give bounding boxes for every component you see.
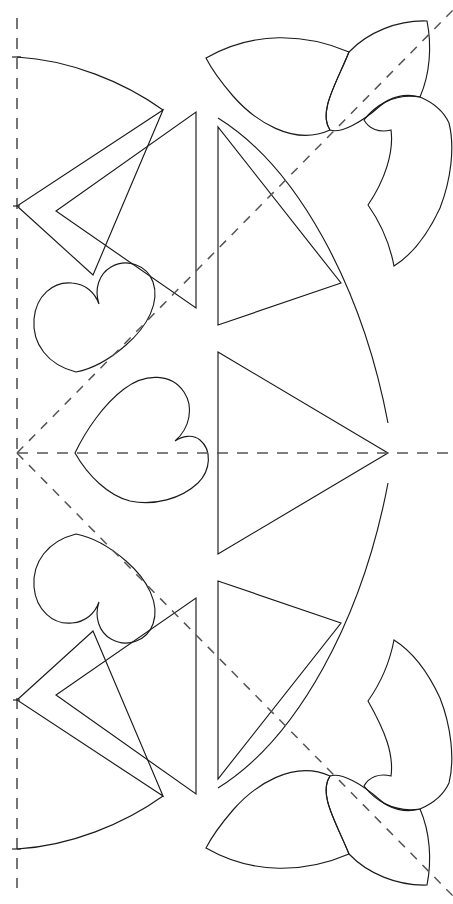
paper-cutting-template: Folded Paper Cutting Template Half-circl… bbox=[0, 0, 453, 904]
